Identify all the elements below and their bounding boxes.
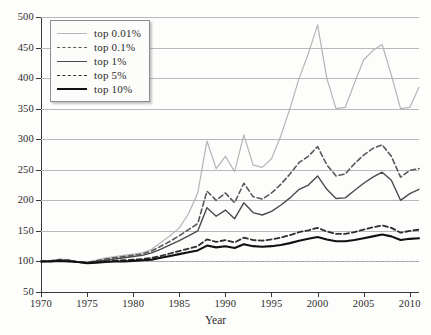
legend-swatch-icon bbox=[57, 75, 87, 76]
y-tick-label: 500 bbox=[0, 12, 34, 23]
x-tick-mark bbox=[364, 292, 365, 297]
series-line-4 bbox=[41, 235, 419, 264]
y-tick-label: 350 bbox=[0, 104, 34, 115]
y-tick-mark bbox=[36, 231, 41, 232]
x-tick-mark bbox=[133, 292, 134, 297]
x-tick-label: 2005 bbox=[344, 299, 384, 310]
y-tick-label: 100 bbox=[0, 256, 34, 267]
y-tick-label: 300 bbox=[0, 134, 34, 145]
x-tick-label: 1980 bbox=[113, 299, 153, 310]
y-tick-mark bbox=[36, 261, 41, 262]
legend-swatch-icon bbox=[57, 47, 87, 48]
legend-item-1: top 0.1% bbox=[57, 40, 141, 54]
y-tick-mark bbox=[36, 17, 41, 18]
y-tick-label: 450 bbox=[0, 43, 34, 54]
chart-container: 50100150200250300350400450500 1970197519… bbox=[0, 0, 431, 335]
series-line-2 bbox=[41, 172, 419, 262]
x-tick-mark bbox=[271, 292, 272, 297]
x-tick-label: 1995 bbox=[251, 299, 291, 310]
legend-item-2: top 1% bbox=[57, 54, 141, 68]
series-line-1 bbox=[41, 145, 419, 263]
x-tick-mark bbox=[225, 292, 226, 297]
x-tick-label: 1970 bbox=[21, 299, 61, 310]
y-tick-label: 400 bbox=[0, 73, 34, 84]
x-tick-mark bbox=[179, 292, 180, 297]
y-tick-label: 150 bbox=[0, 226, 34, 237]
y-tick-mark bbox=[36, 78, 41, 79]
y-tick-mark bbox=[36, 200, 41, 201]
y-tick-mark bbox=[36, 48, 41, 49]
x-tick-mark bbox=[318, 292, 319, 297]
x-tick-label: 1985 bbox=[159, 299, 199, 310]
y-tick-mark bbox=[36, 139, 41, 140]
x-axis-line bbox=[41, 292, 419, 293]
legend-label: top 5% bbox=[94, 69, 127, 81]
x-tick-mark bbox=[41, 292, 42, 297]
y-tick-label: 200 bbox=[0, 195, 34, 206]
x-tick-label: 1990 bbox=[205, 299, 245, 310]
y-tick-mark bbox=[36, 109, 41, 110]
x-axis-title: Year bbox=[0, 314, 431, 326]
x-tick-mark bbox=[410, 292, 411, 297]
legend-label: top 1% bbox=[94, 55, 127, 67]
legend-label: top 0.1% bbox=[94, 41, 135, 53]
legend-item-0: top 0.01% bbox=[57, 26, 141, 40]
legend-label: top 10% bbox=[94, 83, 132, 95]
y-tick-label: 250 bbox=[0, 165, 34, 176]
legend-item-3: top 5% bbox=[57, 68, 141, 82]
series-line-3 bbox=[41, 225, 419, 262]
legend-swatch-icon bbox=[57, 88, 87, 90]
legend-swatch-icon bbox=[57, 33, 87, 34]
legend-label: top 0.01% bbox=[94, 27, 141, 39]
legend-swatch-icon bbox=[57, 61, 87, 62]
x-tick-label: 2000 bbox=[298, 299, 338, 310]
x-tick-mark bbox=[87, 292, 88, 297]
y-tick-mark bbox=[36, 170, 41, 171]
legend-item-4: top 10% bbox=[57, 82, 141, 96]
x-tick-label: 1975 bbox=[67, 299, 107, 310]
y-tick-label: 50 bbox=[0, 287, 34, 298]
x-tick-label: 2010 bbox=[390, 299, 430, 310]
chart-legend: top 0.01%top 0.1%top 1%top 5%top 10% bbox=[50, 20, 150, 102]
